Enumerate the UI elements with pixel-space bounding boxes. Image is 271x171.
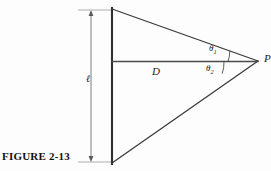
- theta2-subscript: 2: [210, 68, 213, 75]
- label-distance-d: D: [152, 65, 160, 77]
- dimension-arrow-bottom: [89, 156, 94, 162]
- triangle-side-upper: [112, 9, 258, 61]
- label-length-l: ℓ: [86, 73, 90, 84]
- label-angle-theta2: θ2: [206, 63, 214, 75]
- angle-arc-theta1: [228, 51, 230, 62]
- angle-arc-theta2: [222, 62, 224, 74]
- diagram-canvas: [0, 0, 271, 171]
- label-angle-theta1: θ1: [209, 43, 217, 55]
- figure-container: D ℓ P θ1 θ2 FIGURE 2-13: [0, 0, 271, 171]
- label-point-p: P: [264, 52, 271, 64]
- theta1-subscript: 1: [213, 48, 216, 55]
- figure-caption: FIGURE 2-13: [2, 150, 70, 162]
- dimension-arrow-top: [89, 10, 94, 16]
- triangle-side-lower: [112, 61, 258, 163]
